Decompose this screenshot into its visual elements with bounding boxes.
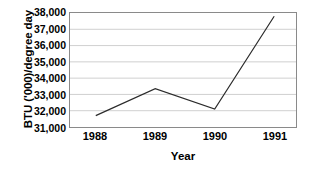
x-tick-label: 1991	[245, 131, 305, 142]
x-axis-title: Year	[69, 150, 297, 162]
line-chart: BTU ('000)/degree day 38,000 37,000 36,0…	[0, 0, 318, 180]
plot-canvas	[70, 13, 296, 127]
x-tick-label: 1989	[125, 131, 185, 142]
y-tick-label: 34,000	[14, 73, 66, 84]
y-tick-label: 31,000	[14, 123, 66, 134]
y-tick-label: 35,000	[14, 56, 66, 67]
y-tick-label: 37,000	[14, 23, 66, 34]
y-tick-label: 32,000	[14, 106, 66, 117]
y-tick-label: 36,000	[14, 40, 66, 51]
y-tick-label: 38,000	[14, 7, 66, 18]
x-axis-tick-labels: 1988198919901991	[69, 131, 297, 147]
y-axis-tick-labels: 38,000 37,000 36,000 35,000 34,000 33,00…	[14, 12, 66, 128]
plot-area	[69, 12, 297, 128]
x-tick-label: 1990	[185, 131, 245, 142]
data-series-line	[96, 16, 274, 115]
y-tick-label: 33,000	[14, 90, 66, 101]
x-tick-label: 1988	[65, 131, 125, 142]
